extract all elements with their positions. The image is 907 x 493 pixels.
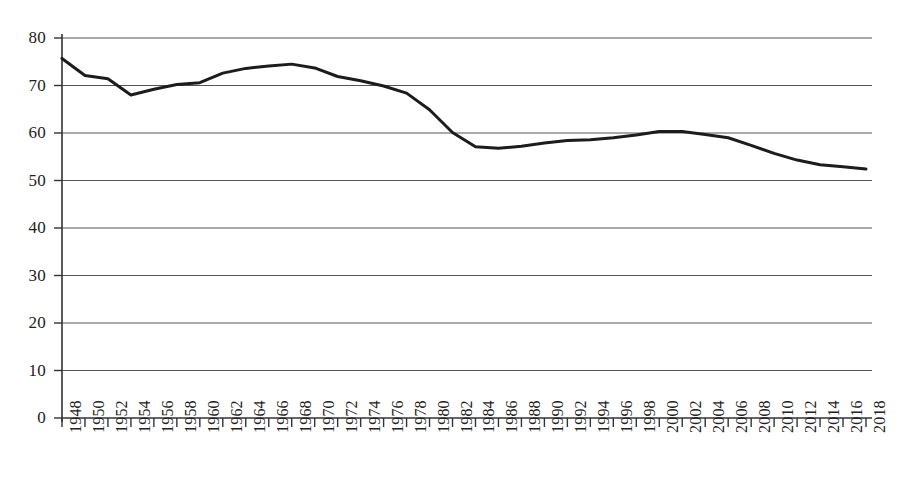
x-tick-label: 1960	[206, 400, 222, 433]
x-tick-label: 2002	[688, 400, 704, 433]
x-tick-label: 2008	[757, 400, 773, 433]
x-tick-label: 1994	[596, 400, 612, 433]
line-chart: 01020304050607080 1948195019521954195619…	[0, 0, 907, 493]
y-tick-label: 80	[0, 29, 46, 46]
x-tick-label: 2006	[734, 400, 750, 433]
x-tick-label: 2010	[780, 400, 796, 433]
x-tick-label: 1992	[573, 400, 589, 433]
x-tick-label: 2014	[826, 400, 842, 433]
x-tick-label: 1966	[275, 400, 291, 433]
x-tick-label: 1974	[367, 400, 383, 433]
x-tick-label: 1996	[619, 400, 635, 433]
x-tick-label: 2004	[711, 400, 727, 433]
x-tick-label: 2018	[872, 400, 888, 433]
x-tick-label: 1964	[252, 400, 268, 433]
x-tick-label: 1972	[344, 400, 360, 433]
x-tick-label: 1956	[160, 400, 176, 433]
gridlines	[62, 38, 872, 371]
x-tick-label: 2012	[803, 400, 819, 433]
x-tick-label: 1984	[481, 400, 497, 433]
y-tick-marks	[54, 38, 62, 418]
x-tick-label: 1954	[137, 400, 153, 433]
y-tick-label: 20	[0, 314, 46, 331]
data-series-line	[62, 58, 866, 169]
x-tick-label: 1968	[298, 400, 314, 433]
x-tick-label: 1962	[229, 400, 245, 433]
y-tick-label: 70	[0, 77, 46, 94]
x-tick-label: 1958	[183, 400, 199, 433]
y-tick-label: 30	[0, 267, 46, 284]
x-tick-label: 1948	[68, 400, 84, 433]
x-tick-label: 1950	[91, 400, 107, 433]
x-tick-label: 2016	[849, 400, 865, 433]
x-tick-label: 1976	[390, 400, 406, 433]
x-tick-label: 1952	[114, 400, 130, 433]
x-tick-label: 1986	[504, 400, 520, 433]
y-tick-label: 50	[0, 172, 46, 189]
x-tick-label: 1982	[459, 400, 475, 433]
y-tick-label: 40	[0, 219, 46, 236]
y-tick-label: 60	[0, 124, 46, 141]
y-tick-label: 0	[0, 409, 46, 426]
x-tick-label: 1988	[527, 400, 543, 433]
x-tick-label: 1980	[436, 400, 452, 433]
x-tick-label: 1970	[321, 400, 337, 433]
x-tick-label: 2000	[665, 400, 681, 433]
x-tick-label: 1998	[642, 400, 658, 433]
x-tick-label: 1990	[550, 400, 566, 433]
x-tick-label: 1978	[413, 400, 429, 433]
y-tick-label: 10	[0, 362, 46, 379]
